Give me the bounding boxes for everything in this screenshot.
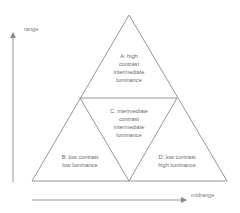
region-c-label: C: intermediate contrast intermediate lu… bbox=[110, 108, 148, 138]
svg-text:B: low contrast: B: low contrast bbox=[62, 154, 99, 160]
svg-text:C: intermediate: C: intermediate bbox=[110, 108, 148, 114]
svg-text:intermediate: intermediate bbox=[114, 69, 145, 75]
y-axis-label: range bbox=[24, 26, 38, 32]
svg-text:contrast: contrast bbox=[119, 61, 139, 67]
contrast-luminance-diagram: range midrange A: high contrast intermed… bbox=[0, 0, 240, 213]
region-b-label: B: low contrast low luminance bbox=[62, 154, 99, 168]
svg-text:intermediate: intermediate bbox=[114, 124, 145, 130]
svg-text:contrast: contrast bbox=[119, 116, 139, 122]
svg-text:low luminance: low luminance bbox=[62, 162, 97, 168]
svg-text:luminance: luminance bbox=[116, 77, 142, 83]
svg-text:luminance: luminance bbox=[116, 132, 142, 138]
region-d-label: D: low contrast high luminance bbox=[158, 154, 196, 168]
x-axis-label: midrange bbox=[191, 192, 214, 198]
svg-text:A: high: A: high bbox=[120, 53, 137, 59]
svg-text:high luminance: high luminance bbox=[158, 162, 196, 168]
region-a-label: A: high contrast intermediate luminance bbox=[114, 53, 145, 83]
svg-text:D: low contrast: D: low contrast bbox=[159, 154, 196, 160]
